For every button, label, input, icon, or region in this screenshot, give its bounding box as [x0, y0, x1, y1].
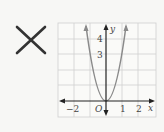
x-tick-2: 2: [136, 105, 142, 114]
y-axis-label: y: [110, 25, 115, 34]
y-tick-3: 3: [97, 51, 103, 60]
grid: [58, 23, 156, 117]
x-mark-icon: [17, 27, 45, 53]
y-tick-4: 4: [97, 35, 103, 44]
x-tick-1: 1: [120, 105, 126, 114]
x-tick-neg2: −2: [66, 105, 79, 114]
figure: y 4 3 −2 O 1 2 x: [0, 0, 164, 132]
origin-label: O: [95, 105, 102, 114]
x-axis-label: x: [148, 104, 153, 113]
